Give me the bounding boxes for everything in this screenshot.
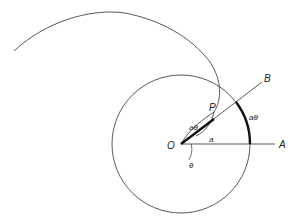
spiral-inner bbox=[196, 112, 214, 136]
label-a-point: A bbox=[278, 139, 286, 150]
label-o: O bbox=[167, 140, 175, 151]
label-p-point: P bbox=[209, 102, 216, 113]
angle-arc bbox=[189, 144, 192, 160]
label-segment-op: aθ bbox=[189, 123, 198, 132]
spiral-diagram: O A B P a θ aθ aθ bbox=[0, 0, 297, 224]
label-b-point: B bbox=[264, 73, 271, 84]
label-theta: θ bbox=[189, 161, 194, 170]
arc-a-theta bbox=[236, 102, 250, 144]
label-arc-length: aθ bbox=[249, 113, 258, 122]
label-radius: a bbox=[209, 135, 214, 144]
